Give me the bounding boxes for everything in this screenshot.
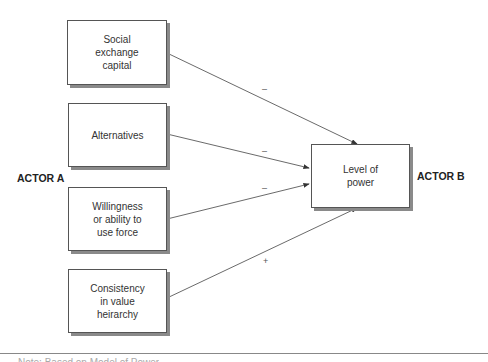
edge-sign-willingness: – bbox=[262, 183, 267, 193]
edge-sign-social: – bbox=[262, 84, 267, 94]
edge-consistency-to-power bbox=[167, 208, 357, 298]
caption-partial: Note: Based on Model of Power bbox=[18, 357, 159, 362]
edge-willingness-to-power bbox=[167, 184, 309, 219]
node-label: Alternatives bbox=[91, 129, 143, 142]
edge-sign-consistency: + bbox=[263, 256, 268, 266]
node-level-of-power: Level of power bbox=[311, 144, 410, 208]
node-label: Willingness or ability to use force bbox=[92, 200, 143, 239]
node-label: Consistency in value heirarchy bbox=[90, 282, 144, 321]
edge-sign-alternatives: – bbox=[262, 146, 267, 156]
node-social-exchange-capital: Social exchange capital bbox=[67, 20, 167, 85]
node-willingness-force: Willingness or ability to use force bbox=[68, 187, 167, 251]
node-label: Social exchange capital bbox=[95, 33, 138, 72]
bottom-rule bbox=[0, 353, 488, 354]
actor-b-label: ACTOR B bbox=[417, 170, 465, 182]
edge-alternatives-to-power bbox=[167, 134, 309, 168]
node-alternatives: Alternatives bbox=[68, 103, 167, 167]
actor-a-label: ACTOR A bbox=[17, 172, 64, 184]
edge-social-to-power bbox=[167, 53, 357, 144]
node-consistency-value: Consistency in value heirarchy bbox=[68, 269, 167, 333]
node-label: Level of power bbox=[343, 163, 378, 189]
